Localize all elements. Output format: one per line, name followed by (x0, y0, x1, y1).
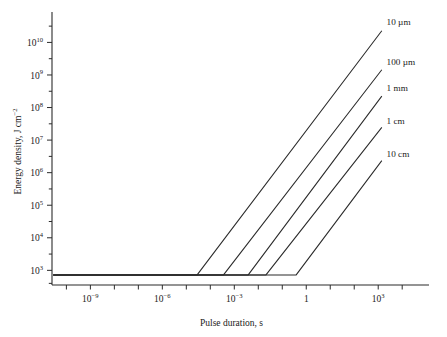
x-tick-label: 10−6 (154, 292, 171, 304)
y-tick-label: 106 (30, 166, 44, 178)
curve-label: 10 cm (387, 149, 410, 159)
x-axis-tick-labels: 10−910−610−31103 (82, 292, 385, 304)
y-axis-ticks (47, 26, 52, 283)
curve-label: 1 cm (387, 116, 405, 126)
chart-figure: 1031041051061071081091010 10−910−610−311… (0, 0, 447, 337)
y-tick-label: 1010 (27, 36, 44, 48)
y-tick-label: 104 (30, 231, 44, 243)
y-tick-label: 109 (30, 68, 44, 80)
x-axis-title: Pulse duration, s (200, 318, 263, 328)
x-tick-label: 10−9 (82, 292, 99, 304)
y-tick-label: 107 (30, 134, 44, 146)
curve-label: 10 µm (387, 17, 411, 27)
x-tick-label: 1 (304, 294, 309, 304)
threshold-curves (53, 31, 382, 275)
threshold-curve (53, 127, 382, 275)
x-axis-ticks (66, 285, 402, 290)
y-axis-title: Energy density, J cm−2 (11, 109, 23, 195)
y-axis-tick-labels: 1031041051061071081091010 (27, 36, 44, 276)
threshold-curve (53, 70, 382, 275)
x-tick-label: 10−3 (226, 292, 243, 304)
curve-label: 1 mm (387, 83, 408, 93)
threshold-curve (53, 31, 382, 275)
energy-density-vs-pulse-duration-chart: 1031041051061071081091010 10−910−610−311… (0, 0, 447, 337)
axis-lines (52, 12, 429, 285)
x-tick-label: 103 (372, 292, 386, 304)
y-tick-label: 108 (30, 101, 44, 113)
y-tick-label: 105 (30, 199, 44, 211)
curve-label: 100 µm (387, 57, 416, 67)
curve-labels: 10 µm100 µm1 mm1 cm10 cm (387, 17, 416, 159)
y-tick-label: 103 (30, 264, 44, 276)
threshold-curve (53, 161, 382, 275)
